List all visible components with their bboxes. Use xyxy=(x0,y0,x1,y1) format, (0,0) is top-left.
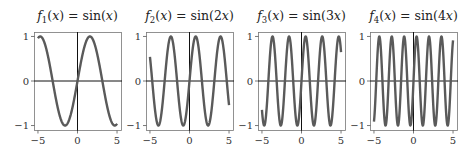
y-tick-label: −1 xyxy=(350,120,365,131)
subplot-title: f2(x) = sin(2x) xyxy=(144,8,234,25)
subplot-3: −505−101f3(x) = sin(3x) xyxy=(238,8,346,146)
y-tick-label: 0 xyxy=(135,76,141,87)
x-tick-label: −5 xyxy=(255,135,270,146)
x-tick-label: −5 xyxy=(367,135,382,146)
x-tick-label: −5 xyxy=(31,135,46,146)
y-tick-label: 0 xyxy=(23,76,29,87)
y-tick-label: 1 xyxy=(135,31,141,42)
y-tick-label: −1 xyxy=(238,120,253,131)
x-tick-label: 0 xyxy=(410,135,416,146)
x-tick-label: 5 xyxy=(338,135,344,146)
subplot-title: f3(x) = sin(3x) xyxy=(256,8,346,25)
x-tick-label: 0 xyxy=(298,135,304,146)
x-tick-label: 5 xyxy=(226,135,232,146)
subplot-title: f1(x) = sin(x) xyxy=(36,8,118,25)
x-tick-label: 0 xyxy=(74,135,80,146)
x-tick-label: 5 xyxy=(114,135,120,146)
x-tick-label: −5 xyxy=(143,135,158,146)
subplot-4: −505−101f4(x) = sin(4x) xyxy=(350,8,458,146)
subplot-title: f4(x) = sin(4x) xyxy=(368,8,458,25)
y-tick-label: 0 xyxy=(247,76,253,87)
subplot-1: −505−101f1(x) = sin(x) xyxy=(14,8,122,146)
figure: −505−101f1(x) = sin(x)−505−101f2(x) = si… xyxy=(0,0,476,151)
y-tick-label: 1 xyxy=(23,31,29,42)
x-tick-label: 5 xyxy=(450,135,456,146)
y-tick-label: 1 xyxy=(359,31,365,42)
y-tick-label: 0 xyxy=(359,76,365,87)
subplot-2: −505−101f2(x) = sin(2x) xyxy=(126,8,234,146)
x-tick-label: 0 xyxy=(186,135,192,146)
y-tick-label: −1 xyxy=(14,120,29,131)
y-tick-label: 1 xyxy=(247,31,253,42)
y-tick-label: −1 xyxy=(126,120,141,131)
